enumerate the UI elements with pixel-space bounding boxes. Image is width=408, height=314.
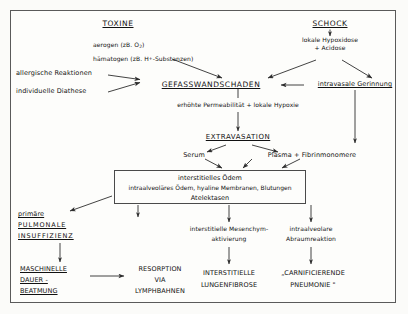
edema-line-2: intraalveoläres Ödem, hyaline Membranen,… <box>129 184 292 191</box>
factor-allergic-reactions: allergische Reaktionen <box>16 70 92 77</box>
outcome-abraum-line1: intraalveolare <box>290 226 333 233</box>
toxine-line-1: aerogen (zB. O2) <box>93 41 145 48</box>
outcome-mesenchym-line2: aktivierung <box>211 236 246 243</box>
box-interstitial-edema: interstitielles Ödem intraalveoläres Öde… <box>114 170 306 204</box>
edema-line-1: interstitielles Ödem <box>178 174 242 182</box>
bottom-fibrosis-line1: INTERSTITIELLE <box>203 270 255 277</box>
bottom-resorption-line2: VIA <box>154 277 165 284</box>
bottom-resorption-line3: LYMPHBAHNEN <box>135 288 185 295</box>
diagram-canvas: TOXINE SCHOCK aerogen (zB. O2) hämatogen… <box>0 0 408 314</box>
node-serum: Serum <box>183 152 205 159</box>
heading-schock: SCHOCK <box>313 20 348 28</box>
node-extravasation: EXTRAVASATION <box>206 134 270 142</box>
toxine-line-2: hämatogen (zB. H+-Substanzen) <box>93 55 193 62</box>
shock-detail-acidosis: + Acidose <box>314 45 345 52</box>
bottom-resorption-line1: RESORPTION <box>138 266 181 273</box>
edema-line-3: Atelektasen <box>191 194 230 202</box>
factor-individual-diathesis: individuelle Diathese <box>16 88 86 95</box>
bottom-pneumonia-line1: „CARNIFICIERENDE <box>281 270 345 277</box>
outcome-abraum-line2: Abraumreaktion <box>286 236 336 243</box>
bottom-ventilation-line2: DAUER - <box>20 277 48 284</box>
shock-detail-hypoxidose: lokale Hypoxidose <box>302 37 358 44</box>
outcome-primary-line3: INSUFFIZIENZ <box>18 233 74 240</box>
bottom-fibrosis-line2: LUNGENFIBROSE <box>201 282 257 289</box>
bottom-pneumonia-line2: PNEUMONIE " <box>290 282 335 289</box>
toxine-detail: aerogen (zB. O2) hämatogen (zB. H+-Subst… <box>85 35 193 70</box>
bottom-ventilation-line1: MASCHINELLE <box>20 266 67 273</box>
node-intravasale-gerinnung: intravasale Gerinnung <box>318 81 392 88</box>
heading-toxine: TOXINE <box>102 20 133 28</box>
node-gefasswandschaden: GEFASSWANDSCHADEN <box>162 81 261 89</box>
outcome-primary-line1: primäre <box>18 211 44 218</box>
node-plasma-fibrinmonomere: Plasma + Fibrinmonomere <box>268 152 356 159</box>
outcome-mesenchym-line1: interstitielle Mesenchym- <box>190 226 268 233</box>
node-permeability-hypoxia: erhöhte Permeabilität + lokale Hypoxie <box>177 102 299 109</box>
outcome-primary-line2: PULMONALE <box>18 222 66 229</box>
bottom-ventilation-line3: BEATMUNG <box>20 288 58 295</box>
